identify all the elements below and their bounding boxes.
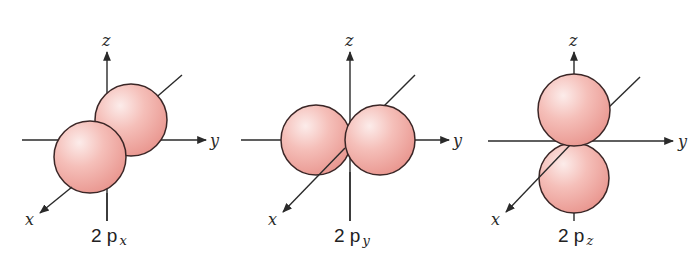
orbital-diagram-svg: z y x 2 px z y x 2 py z y x 2 pz [0, 0, 699, 260]
x-axis-label: x [268, 210, 277, 229]
orbital-lobe-bottom [539, 143, 609, 213]
y-axis-label: y [452, 131, 463, 150]
z-axis-label: z [568, 31, 578, 50]
orbital-figure: z y x 2 px z y x 2 py z y x 2 pz [0, 0, 699, 260]
y-axis-label: y [209, 131, 220, 150]
orbital-label: 2 pz [558, 225, 593, 248]
x-axis-label: x [491, 210, 500, 229]
orbital-label: 2 px [91, 225, 127, 248]
orbital-label: 2 py [334, 225, 370, 248]
orbital-lobe-left [281, 105, 351, 175]
orbital-lobe-right [345, 105, 415, 175]
y-axis-label: y [677, 132, 688, 151]
panel-2py: z y x 2 py [241, 31, 463, 248]
panel-2px: z y x 2 px [22, 31, 220, 248]
orbital-lobe-top [538, 74, 610, 146]
z-axis-label: z [344, 31, 354, 50]
panel-2pz: z y x 2 pz [488, 31, 688, 248]
z-axis-label: z [101, 31, 111, 50]
orbital-lobe-front [54, 121, 126, 193]
x-axis-front [40, 187, 72, 213]
x-axis-label: x [25, 210, 34, 229]
